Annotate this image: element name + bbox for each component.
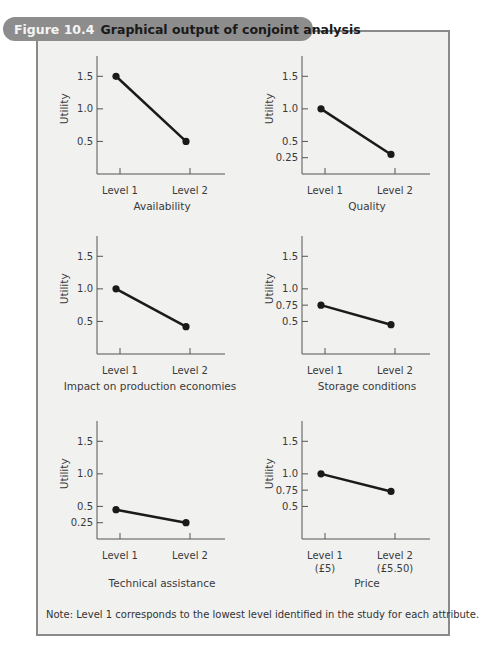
data-point [182, 519, 189, 526]
y-tick-label: 1.5 [282, 436, 298, 447]
y-tick-label: 0.25 [71, 517, 93, 528]
x-axis-label: Impact on production economies [64, 380, 237, 392]
y-tick-label: 0.75 [276, 300, 298, 311]
x-tick-label: Level 2 [172, 185, 208, 196]
x-axis-label: Availability [133, 200, 190, 212]
x-tick-label: Level 2 [377, 185, 413, 196]
x-tick-label: Level 2 [172, 550, 208, 561]
x-tick-label: Level 1 [102, 550, 138, 561]
y-tick-label: 1.0 [282, 468, 298, 479]
y-tick-label: 0.5 [282, 316, 298, 327]
x-tick-sublabel: (£5) [315, 563, 336, 574]
chart-production-economies: 1.51.00.5UtilityLevel 1Level 2Impact on … [50, 230, 230, 400]
x-axis-label: Price [354, 577, 380, 589]
utility-line [116, 289, 186, 327]
x-tick-label: Level 1 [102, 185, 138, 196]
x-tick-label: Level 2 [377, 550, 413, 561]
chart-availability: 1.51.00.5UtilityLevel 1Level 2Availabili… [50, 50, 230, 220]
data-point [112, 73, 119, 80]
data-point [387, 151, 394, 158]
y-tick-label: 1.5 [282, 71, 298, 82]
y-tick-label: 1.0 [77, 468, 93, 479]
chart-storage-conditions: 1.51.00.750.5UtilityLevel 1Level 2Storag… [255, 230, 435, 400]
figure-note: Note: Level 1 corresponds to the lowest … [46, 609, 479, 620]
utility-line [116, 76, 186, 141]
chart-technical-assistance: 1.51.00.50.25UtilityLevel 1Level 2Techni… [50, 415, 230, 600]
y-tick-label: 1.5 [77, 436, 93, 447]
y-tick-label: 0.5 [282, 136, 298, 147]
figure-title: Graphical output of conjoint analysis [101, 22, 361, 37]
y-tick-label: 1.0 [77, 103, 93, 114]
y-axis-label: Utility [58, 93, 70, 124]
data-point [182, 138, 189, 145]
data-point [317, 302, 324, 309]
chart-price: 1.51.00.750.5UtilityLevel 1(£5)Level 2(£… [255, 415, 435, 600]
y-tick-label: 1.5 [77, 251, 93, 262]
y-axis-label: Utility [263, 458, 275, 489]
y-tick-label: 0.5 [77, 136, 93, 147]
y-tick-label: 0.25 [276, 152, 298, 163]
y-axis-label: Utility [58, 458, 70, 489]
y-tick-label: 0.5 [77, 316, 93, 327]
data-point [182, 323, 189, 330]
utility-line [116, 510, 186, 523]
data-point [387, 488, 394, 495]
y-tick-label: 1.5 [282, 251, 298, 262]
figure-number: Figure 10.4 [14, 22, 95, 37]
x-tick-label: Level 2 [377, 365, 413, 376]
chart-quality: 1.51.00.50.25UtilityLevel 1Level 2Qualit… [255, 50, 435, 220]
utility-line [321, 474, 391, 492]
y-tick-label: 0.5 [77, 501, 93, 512]
figure-title-banner: Figure 10.4 Graphical output of conjoint… [3, 17, 313, 41]
data-point [317, 105, 324, 112]
y-tick-label: 1.0 [282, 283, 298, 294]
y-tick-label: 1.0 [282, 103, 298, 114]
x-tick-label: Level 1 [307, 185, 343, 196]
x-tick-label: Level 2 [172, 365, 208, 376]
data-point [387, 321, 394, 328]
x-tick-sublabel: (£5.50) [377, 563, 414, 574]
y-tick-label: 1.5 [77, 71, 93, 82]
x-axis-label: Quality [348, 200, 386, 212]
data-point [317, 470, 324, 477]
x-tick-label: Level 1 [102, 365, 138, 376]
data-point [112, 285, 119, 292]
utility-line [321, 305, 391, 325]
y-tick-label: 0.75 [276, 485, 298, 496]
y-axis-label: Utility [263, 93, 275, 124]
y-axis-label: Utility [263, 273, 275, 304]
x-axis-label: Technical assistance [108, 577, 216, 589]
y-tick-label: 0.5 [282, 501, 298, 512]
y-tick-label: 1.0 [77, 283, 93, 294]
utility-line [321, 109, 391, 155]
data-point [112, 506, 119, 513]
x-axis-label: Storage conditions [318, 380, 416, 392]
x-tick-label: Level 1 [307, 365, 343, 376]
y-axis-label: Utility [58, 273, 70, 304]
x-tick-label: Level 1 [307, 550, 343, 561]
